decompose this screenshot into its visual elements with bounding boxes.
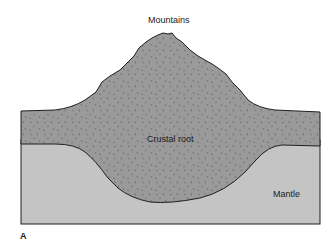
mountains-label: Mountains [148, 15, 190, 25]
panel-label: A [20, 231, 27, 241]
mantle-label: Mantle [273, 189, 300, 199]
crustal-root-label: Crustal root [147, 134, 194, 144]
isostasy-diagram [0, 0, 336, 250]
